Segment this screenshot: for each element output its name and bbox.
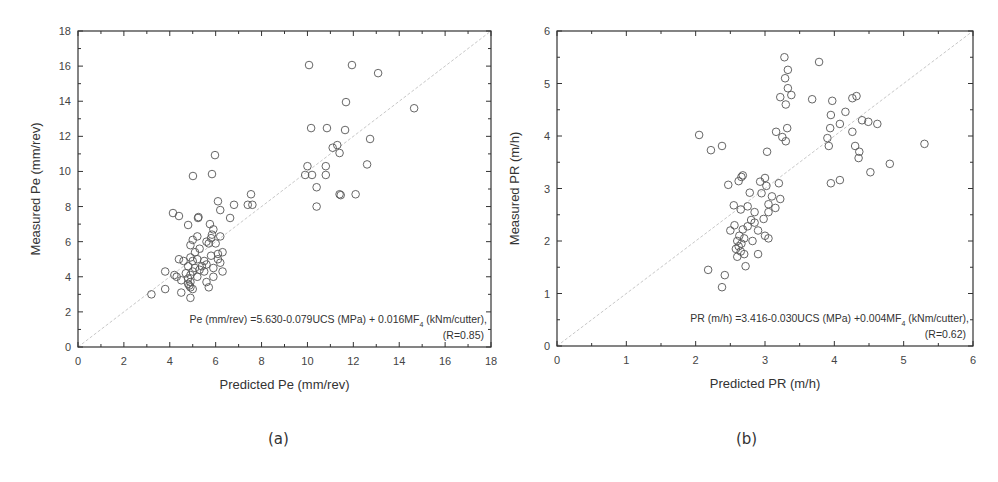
data-point [731, 221, 739, 229]
data-point [219, 248, 227, 256]
data-point [730, 202, 738, 210]
x-tick-label: 2 [121, 355, 127, 367]
data-point [772, 204, 780, 212]
data-point [171, 271, 179, 279]
data-point [781, 53, 789, 61]
data-point [313, 203, 321, 211]
y-axis-label: Measured Pe (mm/rev) [28, 123, 43, 256]
data-point [874, 120, 882, 128]
x-tick-label: 12 [347, 355, 359, 367]
data-point [211, 151, 219, 159]
data-point [366, 135, 374, 143]
x-tick-label: 0 [75, 355, 81, 367]
y-tick-label: 3 [544, 183, 550, 195]
data-point [724, 181, 732, 189]
data-point [765, 208, 773, 216]
data-point [187, 294, 195, 302]
data-point [763, 148, 771, 156]
scatter-plot-b: 01234560123456Predicted PR (m/h)Measured… [499, 0, 998, 400]
data-point [348, 61, 356, 69]
data-point [352, 190, 360, 198]
data-point [341, 126, 349, 134]
data-point [727, 227, 735, 235]
data-point [363, 161, 371, 169]
x-tick-label: 10 [301, 355, 313, 367]
data-point [788, 91, 796, 99]
x-axis-label: Predicted Pe (mm/rev) [219, 377, 349, 392]
data-point [244, 201, 252, 209]
data-point [175, 255, 183, 263]
data-point [815, 58, 823, 66]
caption-b: (b) [736, 430, 757, 448]
data-point [704, 266, 712, 274]
y-tick-label: 12 [59, 130, 71, 142]
data-point [161, 268, 169, 276]
correlation-coefficient: (R=0.85) [443, 329, 484, 341]
caption-a: (a) [268, 430, 289, 448]
data-point [329, 144, 337, 152]
data-point [322, 171, 330, 179]
correlation-coefficient: (R=0.62) [925, 328, 966, 340]
data-point [760, 215, 768, 223]
data-point [342, 98, 350, 106]
data-point [210, 273, 218, 281]
data-point [744, 203, 752, 211]
data-point [410, 104, 418, 112]
data-point [765, 200, 773, 208]
data-point [219, 268, 227, 276]
data-point [733, 253, 741, 261]
data-point [208, 170, 216, 178]
data-point [305, 61, 313, 69]
data-point [783, 124, 791, 132]
data-point [775, 179, 783, 187]
y-tick-label: 8 [65, 201, 71, 213]
data-point [189, 172, 197, 180]
chart-panel-b: 01234560123456Predicted PR (m/h)Measured… [499, 0, 998, 482]
data-point [214, 197, 222, 205]
x-tick-label: 6 [970, 354, 976, 366]
reference-line [557, 31, 973, 346]
data-point [216, 206, 224, 214]
data-point [824, 134, 832, 142]
data-point [374, 69, 382, 77]
y-tick-label: 4 [65, 271, 71, 283]
y-tick-label: 18 [59, 25, 71, 37]
data-point [177, 289, 185, 297]
scatter-plot-a: 024681012141618024681012141618Predicted … [0, 0, 499, 400]
data-point [721, 271, 729, 279]
x-tick-label: 3 [762, 354, 768, 366]
y-axis-label: Measured PR (m/h) [507, 132, 522, 245]
data-point [836, 176, 844, 184]
y-tick-label: 14 [59, 95, 71, 107]
y-tick-label: 6 [65, 236, 71, 248]
data-point [695, 131, 703, 139]
data-points [148, 61, 418, 301]
data-points [695, 53, 928, 291]
data-point [718, 283, 726, 291]
data-point [886, 160, 894, 168]
data-point [772, 128, 780, 136]
data-point [226, 214, 234, 222]
x-tick-label: 8 [258, 355, 264, 367]
data-point [206, 220, 214, 228]
data-point [323, 124, 331, 132]
data-point [754, 250, 762, 258]
data-point [184, 262, 192, 270]
data-point [210, 226, 218, 234]
x-tick-label: 14 [393, 355, 405, 367]
reference-line [78, 31, 491, 347]
data-point [836, 120, 844, 128]
data-point [249, 201, 257, 209]
y-tick-label: 0 [65, 341, 71, 353]
data-point [784, 66, 792, 74]
data-point [194, 273, 202, 281]
data-point [148, 291, 156, 299]
data-point [336, 149, 344, 157]
x-axis-label: Predicted PR (m/h) [710, 376, 821, 391]
data-point [921, 140, 929, 148]
data-point [313, 183, 321, 191]
data-point [768, 193, 776, 201]
data-point [781, 74, 789, 82]
y-tick-label: 5 [544, 78, 550, 90]
data-point [739, 172, 747, 180]
